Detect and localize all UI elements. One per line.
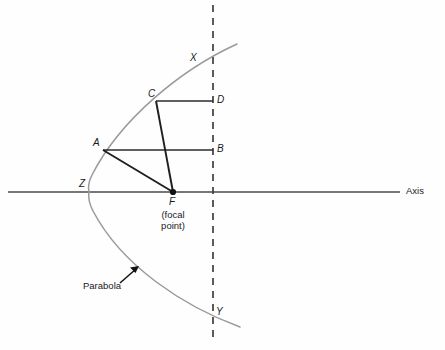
point-label-d: D bbox=[217, 94, 224, 106]
point-label-b: B bbox=[217, 143, 224, 155]
point-label-x: X bbox=[190, 52, 197, 64]
parabola-annotation-arrow-head bbox=[130, 266, 139, 273]
point-label-z: Z bbox=[79, 178, 85, 190]
diagram-canvas: X C D A B Z F (focal point) Y Parabola A… bbox=[0, 0, 445, 350]
parabola-diagram bbox=[0, 0, 445, 350]
segment-af bbox=[103, 150, 173, 192]
point-label-f: F bbox=[169, 196, 175, 208]
focal-point-marker bbox=[170, 189, 176, 195]
parabola-annotation-label: Parabola bbox=[83, 281, 121, 292]
segment-cf bbox=[156, 101, 173, 192]
point-label-c: C bbox=[148, 88, 155, 100]
axis-label: Axis bbox=[406, 186, 424, 197]
focal-point-caption-line2: point) bbox=[145, 221, 201, 232]
point-label-a: A bbox=[93, 137, 100, 149]
point-label-y: Y bbox=[216, 306, 223, 318]
